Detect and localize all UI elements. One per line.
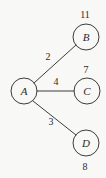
edge-a-d <box>33 101 76 135</box>
edge-weight-labels-group: 2 4 3 <box>46 51 59 127</box>
node-value-b: 11 <box>80 9 90 20</box>
node-value-c: 7 <box>84 64 89 75</box>
node-value-d: 8 <box>83 161 88 172</box>
graph-svg: 2 4 3 A B C D 11 7 8 <box>0 0 106 178</box>
edge-weight-a-d: 3 <box>49 116 54 127</box>
edge-weight-a-c: 4 <box>54 76 59 87</box>
node-label-c: C <box>83 85 91 97</box>
edges-group <box>33 45 76 135</box>
node-label-d: D <box>81 137 90 149</box>
edge-weight-a-b: 2 <box>46 51 51 62</box>
graph-diagram-canvas: 2 4 3 A B C D 11 7 8 <box>0 0 106 178</box>
node-label-b: B <box>83 31 90 43</box>
node-label-a: A <box>20 85 28 97</box>
